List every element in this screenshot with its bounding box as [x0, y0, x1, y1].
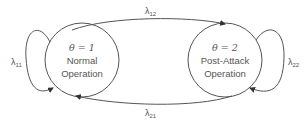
subscript: 22	[293, 62, 300, 68]
state-name-line2: Operation	[188, 67, 262, 80]
transition-label-12: λ12	[145, 7, 156, 16]
lambda-symbol: λ	[11, 57, 16, 67]
state-label-normal: θ = 1 Normal Operation	[45, 41, 119, 80]
lambda-symbol: λ	[288, 57, 293, 67]
state-name-line2: Operation	[45, 67, 119, 80]
state-name-line1: Normal	[45, 54, 119, 67]
subscript: 12	[150, 11, 157, 17]
state-label-post-attack: θ = 2 Post-Attack Operation	[188, 41, 262, 80]
subscript: 21	[150, 113, 157, 119]
state-name-line1: Post-Attack	[188, 54, 262, 67]
state-theta: θ = 1	[45, 41, 119, 54]
transition-label-21: λ21	[145, 109, 156, 118]
transition-label-11: λ11	[11, 58, 22, 67]
transition-arrow-21	[76, 96, 232, 104]
transition-arrow-12	[72, 19, 225, 30]
subscript: 11	[16, 62, 22, 68]
transition-label-22: λ22	[288, 58, 299, 67]
lambda-symbol: λ	[145, 6, 150, 16]
lambda-symbol: λ	[145, 108, 150, 118]
state-theta: θ = 2	[188, 41, 262, 54]
